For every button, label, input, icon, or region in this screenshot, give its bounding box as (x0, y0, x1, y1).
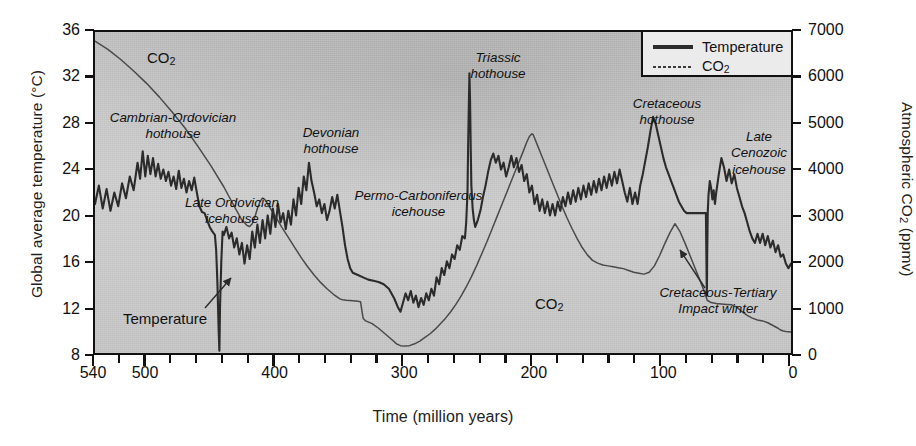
x-tick (375, 355, 377, 363)
x-axis-title: Time (million years) (93, 408, 793, 426)
x-tick (350, 355, 352, 363)
x-tick-label: 500 (110, 364, 180, 382)
annotation-late-ordovician: Late Ordovician icehouse (167, 195, 297, 228)
y-tick-label-left: 36 (36, 21, 80, 39)
annotation-triassic: Triassic hothouse (443, 50, 553, 83)
y-tick-label-right: 2000 (808, 253, 844, 271)
temperature-curve-label: Temperature (123, 310, 207, 327)
co2-label-subscript: 2 (558, 301, 564, 313)
y-tick-right (792, 261, 801, 263)
co2-label-subscript: 2 (170, 55, 176, 67)
x-tick-label: 100 (628, 364, 698, 382)
x-tick (118, 355, 120, 363)
y-tick-label-right: 5000 (808, 114, 844, 132)
y-tick-label-left: 16 (36, 253, 80, 271)
y-tick-label-right: 4000 (808, 160, 844, 178)
x-tick-label: 0 (758, 364, 828, 382)
x-tick (607, 355, 609, 363)
legend: Temperature CO2 (641, 30, 793, 77)
annotation-devonian: Devonian hothouse (276, 125, 386, 158)
x-tick (762, 355, 764, 363)
co2-curve-label-top: CO2 (147, 49, 176, 67)
legend-label-co2: CO2 (702, 58, 730, 75)
legend-key-temperature-line (651, 40, 695, 54)
x-tick (556, 355, 558, 363)
y-tick-right (792, 122, 801, 124)
y-tick-label-right: 7000 (808, 21, 844, 39)
y-tick-label-right: 3000 (808, 207, 844, 225)
x-tick (736, 355, 738, 363)
y-axis-right-title-units: (ppmv) (899, 223, 916, 276)
y-tick-label-right: 6000 (808, 67, 844, 85)
y-tick-label-left: 8 (36, 346, 80, 364)
co2-curve-label-mid: CO2 (535, 295, 564, 313)
x-tick (504, 355, 506, 363)
y-tick-right (792, 308, 801, 310)
x-tick (711, 355, 713, 363)
legend-item-co2: CO2 (651, 57, 791, 77)
annotation-late-cenozoic: Late Cenozoic icehouse (720, 129, 793, 178)
plot-area: Cambrian-Ordovician hothouse Late Ordovi… (93, 30, 793, 355)
y-tick-label-left: 28 (36, 114, 80, 132)
co2-label-text: CO (535, 295, 558, 312)
x-tick (582, 355, 584, 363)
co2-label-text: CO (147, 49, 170, 66)
x-tick (169, 355, 171, 363)
y-tick-right (792, 29, 801, 31)
y-axis-right-title: Atmospheric CO2 (ppmv) (898, 24, 916, 354)
legend-key-co2-line (651, 60, 695, 74)
annotation-kt-impact-winter: Cretaceous-Tertiary Impact winter (643, 285, 793, 318)
x-tick (247, 355, 249, 363)
y-tick-label-left: 24 (36, 160, 80, 178)
x-tick-label: 300 (369, 364, 439, 382)
x-tick-label: 200 (499, 364, 569, 382)
y-tick-right (792, 215, 801, 217)
x-tick (453, 355, 455, 363)
y-tick-right (792, 75, 801, 77)
x-tick (633, 355, 635, 363)
x-tick (427, 355, 429, 363)
annotation-permo-carboniferous: Permo-Carboniferous icehouse (326, 188, 511, 221)
annotation-cretaceous: Cretaceous hothouse (607, 96, 727, 129)
x-tick (195, 355, 197, 363)
annotation-cambrian-ordovician: Cambrian-Ordovician hothouse (93, 110, 253, 143)
y-tick-label-right: 0 (808, 346, 817, 364)
x-tick (298, 355, 300, 363)
y-tick-label-left: 12 (36, 300, 80, 318)
x-tick (221, 355, 223, 363)
legend-label-temperature: Temperature (702, 39, 783, 55)
y-tick-label-right: 1000 (808, 300, 844, 318)
x-tick (685, 355, 687, 363)
x-tick-label: 400 (240, 364, 310, 382)
y-tick-label-left: 20 (36, 207, 80, 225)
y-tick-label-left: 32 (36, 67, 80, 85)
x-tick (324, 355, 326, 363)
y-tick-right (792, 168, 801, 170)
x-tick (479, 355, 481, 363)
y-tick-right (792, 354, 801, 356)
y-axis-right-title-text: Atmospheric CO (899, 102, 916, 217)
legend-item-temperature: Temperature (651, 37, 791, 57)
